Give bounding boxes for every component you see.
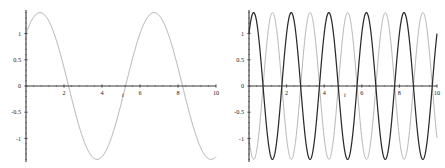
x-tick-label: 4 <box>100 89 103 96</box>
y-tick-label: 0 <box>18 82 21 89</box>
y-tick-label: 1 <box>241 30 244 37</box>
two-panel-figure: 246810 -1-0.500.51 t 246810 -1-0.500.51 … <box>0 0 445 168</box>
right-plot-y-tick-labels: -1-0.500.51 <box>234 30 244 142</box>
x-tick-label: 2 <box>62 89 65 96</box>
y-tick-label: 1 <box>18 30 21 37</box>
right-plot-x-tick-labels: 246810 <box>285 89 440 96</box>
y-tick-label: -0.5 <box>11 108 21 115</box>
x-tick-label: 8 <box>176 89 179 96</box>
right-plot-svg: 246810 -1-0.500.51 t <box>223 0 445 168</box>
x-tick-label: 2 <box>285 89 288 96</box>
left-plot-panel: 246810 -1-0.500.51 t <box>0 0 223 168</box>
x-tick-label: 4 <box>323 89 326 96</box>
x-tick-label: 10 <box>213 89 219 96</box>
x-tick-label: 6 <box>138 89 141 96</box>
y-tick-label: -0.5 <box>234 108 244 115</box>
left-plot-x-axis-label: t <box>122 91 124 98</box>
x-tick-label: 6 <box>360 89 363 96</box>
x-tick-label: 10 <box>434 89 440 96</box>
left-plot-y-tick-labels: -1-0.500.51 <box>11 30 21 142</box>
y-tick-label: -1 <box>16 135 21 142</box>
left-plot-svg: 246810 -1-0.500.51 t <box>0 0 223 168</box>
y-tick-label: 0.5 <box>13 56 21 63</box>
y-tick-label: 0 <box>241 82 244 89</box>
right-plot-x-axis-label: t <box>344 91 346 98</box>
y-tick-label: -1 <box>239 135 244 142</box>
y-tick-label: 0.5 <box>236 56 244 63</box>
x-tick-label: 8 <box>398 89 401 96</box>
right-plot-panel: 246810 -1-0.500.51 t <box>223 0 445 168</box>
left-plot-x-tick-labels: 246810 <box>62 89 219 96</box>
